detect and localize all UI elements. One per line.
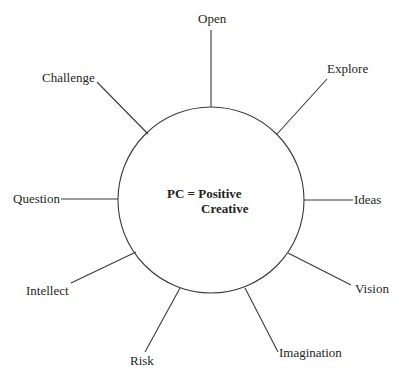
- label-challenge: Challenge: [42, 71, 95, 85]
- spoke-vision: [288, 253, 351, 285]
- spoke-intellect: [71, 252, 136, 283]
- spoke-challenge: [97, 82, 148, 134]
- label-intellect: Intellect: [26, 284, 69, 298]
- label-question: Question: [13, 192, 60, 206]
- label-explore: Explore: [327, 62, 368, 76]
- pc-concept-diagram: PC = Positive Creative Open Explore Idea…: [0, 0, 402, 379]
- center-title-line1: PC = Positive: [167, 186, 242, 201]
- center-title-line2: Creative: [201, 201, 248, 216]
- spoke-imagination: [245, 288, 278, 352]
- spoke-risk: [145, 288, 180, 352]
- label-vision: Vision: [355, 282, 389, 296]
- label-ideas: Ideas: [354, 193, 381, 207]
- label-imagination: Imagination: [279, 346, 342, 360]
- label-open: Open: [198, 12, 226, 26]
- spoke-explore: [277, 79, 327, 134]
- label-risk: Risk: [130, 354, 154, 368]
